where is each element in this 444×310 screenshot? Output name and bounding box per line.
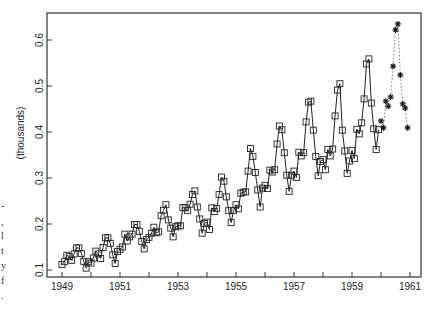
x-tick-label: 1951 xyxy=(109,281,132,292)
text-fragment: , xyxy=(1,217,4,227)
y-tick-label: 0.4 xyxy=(34,125,45,139)
asterisk-marker xyxy=(385,103,391,109)
asterisk-marker xyxy=(392,27,398,33)
asterisk-marker xyxy=(402,105,408,111)
y-axis-label: (thousands) xyxy=(15,107,26,160)
x-tick-label: 1949 xyxy=(51,281,74,292)
text-fragment: . xyxy=(1,291,4,301)
asterisk-marker xyxy=(388,94,394,100)
observed-series xyxy=(59,56,382,271)
y-axis: 0.10.20.30.40.50.6 xyxy=(34,33,52,277)
y-tick-label: 0.5 xyxy=(34,79,45,93)
x-tick-label: 1957 xyxy=(283,281,306,292)
y-tick-label: 0.2 xyxy=(34,217,45,231)
text-fragment: l xyxy=(1,231,4,241)
x-tick-label: 1953 xyxy=(167,281,190,292)
asterisk-marker xyxy=(405,125,411,131)
plot-frame xyxy=(47,13,421,277)
forecast-series xyxy=(378,21,411,131)
y-tick-label: 0.6 xyxy=(34,33,45,47)
x-tick-label: 1955 xyxy=(225,281,248,292)
asterisk-marker xyxy=(395,21,401,27)
y-tick-label: 0.3 xyxy=(34,171,45,185)
x-tick-label: 1959 xyxy=(341,281,364,292)
airline-passengers-chart: 1949195119531955195719591961 0.10.20.30.… xyxy=(0,0,444,310)
asterisk-marker xyxy=(378,118,384,124)
y-tick-label: 0.1 xyxy=(34,263,45,277)
text-fragment: - xyxy=(1,201,4,211)
asterisk-marker xyxy=(380,125,386,131)
asterisk-marker xyxy=(397,72,403,78)
x-tick-label: 1961 xyxy=(399,281,422,292)
text-fragment: f xyxy=(1,276,4,286)
x-axis: 1949195119531955195719591961 xyxy=(51,272,422,292)
text-fragment: y xyxy=(1,261,6,271)
text-fragment: t xyxy=(1,246,4,256)
asterisk-marker xyxy=(390,63,396,69)
